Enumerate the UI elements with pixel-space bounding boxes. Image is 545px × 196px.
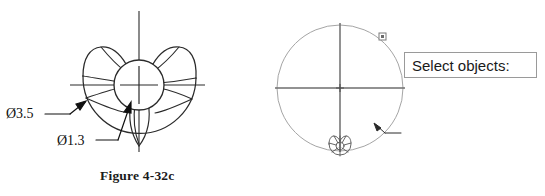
blade-mid-left-upper (83, 76, 119, 82)
leader-dim-200 (374, 123, 401, 133)
circle-selection-drawing-svg (255, 0, 545, 196)
mini-impeller-group (329, 136, 351, 156)
select-objects-prompt[interactable]: Select objects: (404, 52, 537, 78)
leader-dim-35 (45, 101, 86, 114)
crosshair-center-tick (336, 84, 344, 92)
leader-dim-200-arrowhead (374, 123, 381, 131)
figure-caption-left: Figure 4-32c (100, 168, 175, 184)
figure-4-33a: Ø20.0 Figure 4-33a (255, 0, 545, 196)
figure-4-32c: Ø3.5 Ø1.3 Figure 4-32c (0, 0, 273, 196)
mini-impeller-vane-3 (329, 143, 336, 145)
dimension-label-hub: Ø3.5 (6, 106, 34, 122)
select-objects-prompt-label: Select objects: (405, 57, 510, 74)
mini-impeller-vane-4 (344, 143, 351, 145)
drawing-canvas: Ø3.5 Ø1.3 Figure 4-32c (0, 0, 545, 196)
blade-mid-right-upper (159, 78, 196, 83)
pickbox-cursor-fill (381, 35, 384, 38)
leader-dim-13 (96, 102, 131, 140)
hub-group (114, 60, 164, 110)
blade-lower-right (155, 99, 192, 113)
pickbox-cursor[interactable] (379, 33, 386, 40)
dimension-label-blade: Ø1.3 (57, 133, 85, 149)
impeller-drawing-svg (0, 0, 273, 196)
